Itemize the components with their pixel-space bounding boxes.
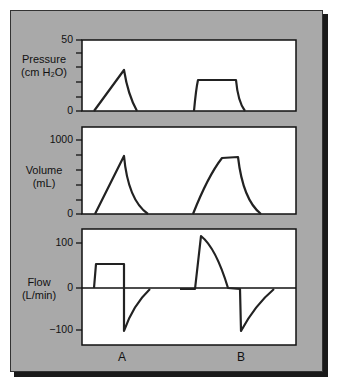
volume-panel [82,127,296,214]
x-label-b: B [237,350,245,364]
x-label-a: A [118,350,126,364]
pressure-panel [82,40,296,111]
volume-tick-0: 0 [43,207,73,219]
flow-tick-neg100: −100 [43,323,73,335]
volume-label-line2: (mL) [14,177,74,190]
volume-label-line1: Volume [14,164,74,177]
flow-panel [82,229,296,345]
flow-tick-100: 100 [43,236,73,248]
flow-tick-0: 0 [43,281,73,293]
pressure-tick-50: 50 [43,33,73,45]
pressure-label-line2: (cm H₂O) [14,66,74,79]
pressure-label: Pressure (cm H₂O) [14,53,74,79]
pressure-label-line1: Pressure [14,53,74,66]
volume-tick-1000: 1000 [43,133,73,145]
pressure-tick-0: 0 [43,104,73,116]
volume-label: Volume (mL) [14,164,74,190]
